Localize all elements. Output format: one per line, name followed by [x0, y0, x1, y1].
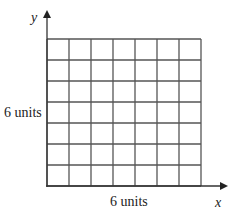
x-axis-label: x	[214, 195, 222, 210]
height-dimension-label: 6 units	[4, 105, 42, 120]
grid-lines	[47, 39, 201, 186]
width-dimension-label: 6 units	[110, 194, 148, 209]
y-axis-label: y	[29, 10, 38, 25]
grid-diagram: y x 6 units 6 units	[0, 0, 237, 216]
